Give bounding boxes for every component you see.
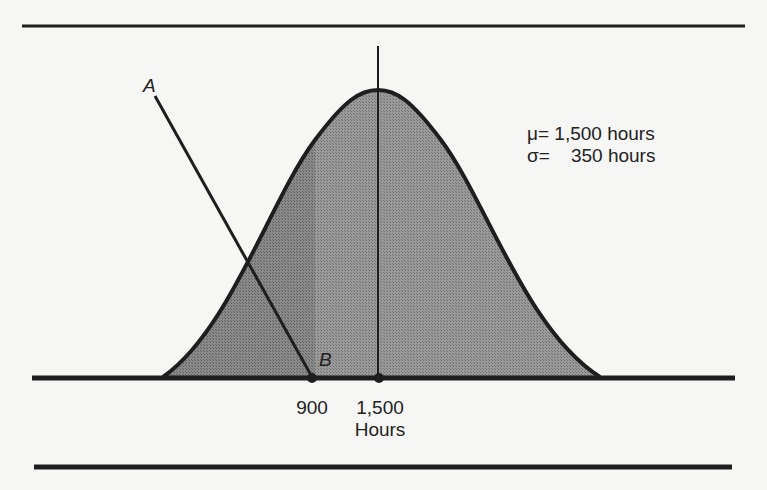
mean-marker — [374, 373, 384, 383]
point-b-marker — [307, 373, 317, 383]
axis-unit-label: Hours — [355, 420, 406, 439]
tick-label-1500: 1,500 — [356, 398, 404, 417]
normal-distribution-figure: A B μ= 1,500 hours σ= 350 hours 900 1,50… — [0, 0, 767, 490]
label-b: B — [319, 350, 332, 369]
tick-label-900: 900 — [296, 398, 328, 417]
mu-label: μ= 1,500 hours — [527, 124, 655, 143]
label-a: A — [143, 76, 156, 95]
sigma-label: σ= 350 hours — [527, 146, 655, 165]
